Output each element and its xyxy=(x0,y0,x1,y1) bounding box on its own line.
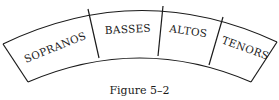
inner-arc xyxy=(28,58,251,82)
section-label-tenors: TENORS xyxy=(220,34,271,62)
section-label-basses: BASSES xyxy=(104,22,151,36)
divider-basses-altos xyxy=(158,6,163,56)
divider-sopranos-basses xyxy=(88,9,99,58)
left-end-edge xyxy=(3,44,28,82)
section-label-altos: ALTOS xyxy=(168,22,208,39)
section-label-sopranos: SOPRANOS xyxy=(22,29,87,65)
figure-caption: Figure 5–2 xyxy=(0,84,279,97)
